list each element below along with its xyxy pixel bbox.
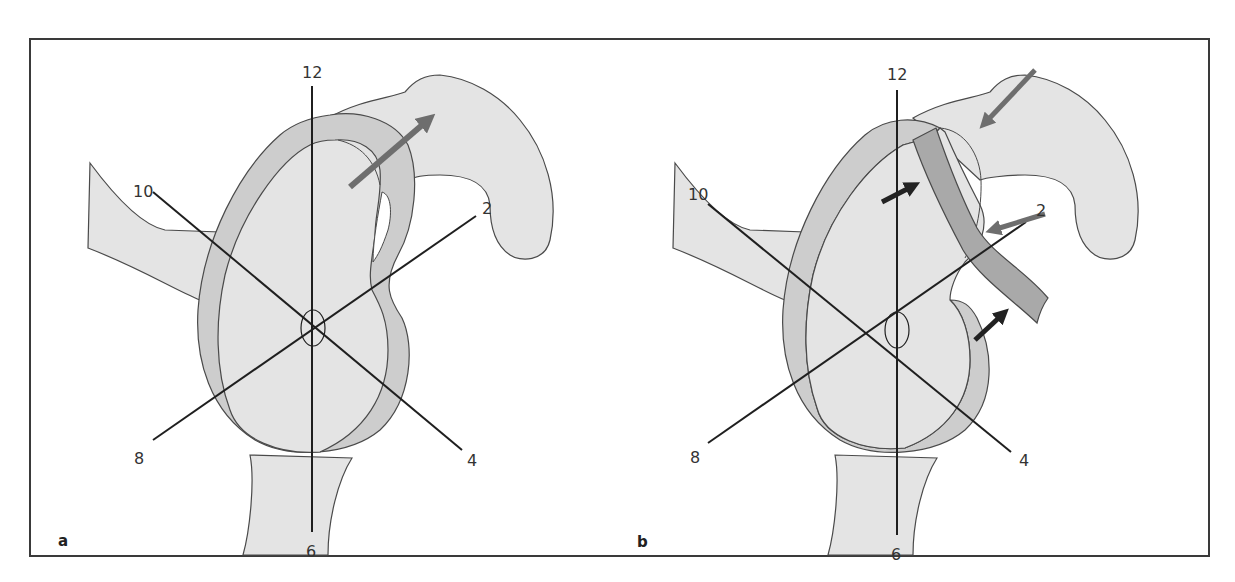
- clock-label-6: 6: [306, 542, 316, 561]
- clock-label-4: 4: [467, 451, 477, 470]
- scapula-neck: [243, 455, 352, 555]
- clock-label-12: 12: [302, 63, 322, 82]
- clock-label-10: 10: [688, 185, 708, 204]
- panel-label-b: b: [637, 533, 648, 551]
- clock-label-12: 12: [887, 65, 907, 84]
- clock-label-10: 10: [133, 182, 153, 201]
- panel-label-a: a: [58, 532, 68, 550]
- panel-b: 12 10 2 8 4 6 b: [637, 65, 1138, 564]
- scapula-body: [673, 163, 805, 300]
- clock-label-4: 4: [1019, 451, 1029, 470]
- panel-a: 12 10 2 8 4 6 a: [58, 63, 553, 561]
- scapula-neck: [828, 455, 937, 555]
- clock-label-2: 2: [1036, 201, 1046, 220]
- clock-label-8: 8: [690, 448, 700, 467]
- clock-label-2: 2: [482, 199, 492, 218]
- clock-label-6: 6: [891, 545, 901, 564]
- glenoid-clock-diagram: 12 10 2 8 4 6 a 12 10 2: [0, 0, 1235, 582]
- clock-label-8: 8: [134, 449, 144, 468]
